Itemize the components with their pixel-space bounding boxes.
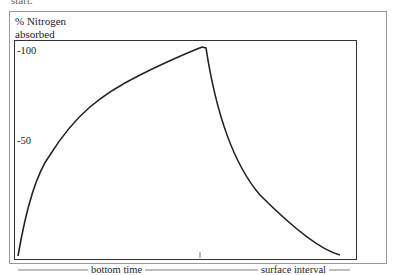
plot-area [15, 41, 357, 260]
bottom-time-label: bottom time [88, 264, 145, 275]
nitrogen-curve [18, 47, 340, 256]
y-tick-50: -50 [17, 135, 31, 146]
surface-interval-label: surface interval [258, 264, 329, 275]
nitrogen-chart [0, 0, 397, 275]
y-tick-100: -100 [17, 45, 36, 56]
